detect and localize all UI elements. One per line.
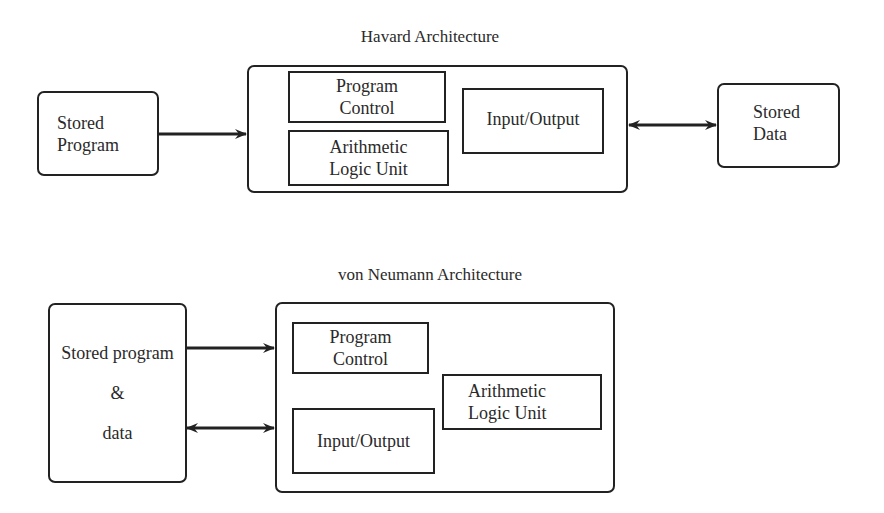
connector-arrows	[0, 0, 884, 513]
